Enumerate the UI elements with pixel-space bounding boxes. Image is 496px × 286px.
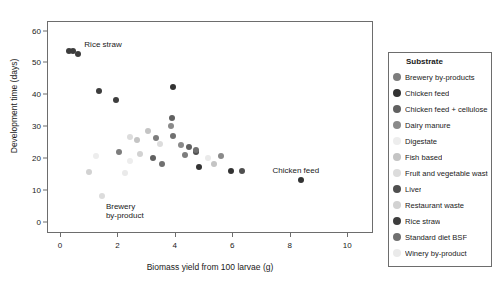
legend-item-4[interactable]: Digestate xyxy=(392,133,488,149)
data-point xyxy=(211,161,217,167)
data-point xyxy=(145,128,151,134)
data-point xyxy=(170,133,176,139)
x-tick-mark xyxy=(117,233,118,237)
plot-area xyxy=(47,21,373,233)
x-tick-mark xyxy=(290,233,291,237)
data-point xyxy=(137,151,143,157)
legend-marker-icon xyxy=(393,233,401,241)
legend-item-label: Liver xyxy=(405,185,421,194)
legend-title: Substrate xyxy=(406,57,488,66)
y-tick-label: 30 xyxy=(21,122,41,131)
legend-item-label: Fish based xyxy=(405,153,442,162)
data-point xyxy=(170,84,176,90)
data-point xyxy=(298,177,304,183)
legend-item-label: Rice straw xyxy=(405,217,440,226)
legend-item-label: Dairy manure xyxy=(405,121,451,130)
legend-marker-icon xyxy=(393,105,401,113)
data-point xyxy=(193,147,199,153)
x-axis-label: Biomass yield from 100 larvae (g) xyxy=(47,262,373,272)
data-point xyxy=(169,115,175,121)
data-point xyxy=(159,161,165,167)
y-tick-mark xyxy=(43,30,47,31)
data-point xyxy=(99,193,105,199)
y-tick-mark xyxy=(43,189,47,190)
data-point xyxy=(122,170,128,176)
data-point xyxy=(116,149,122,155)
legend-item-9[interactable]: Rice straw xyxy=(392,213,488,229)
y-tick-mark xyxy=(43,221,47,222)
legend-item-0[interactable]: Brewery by-products xyxy=(392,69,488,85)
legend-marker-icon xyxy=(393,185,401,193)
y-tick-label: 60 xyxy=(21,26,41,35)
x-tick-label: 2 xyxy=(105,241,129,250)
legend-item-3[interactable]: Dairy manure xyxy=(392,117,488,133)
legend-item-7[interactable]: Liver xyxy=(392,181,488,197)
data-point xyxy=(178,142,184,148)
legend-marker-icon xyxy=(393,89,401,97)
y-tick-mark xyxy=(43,62,47,63)
x-tick-label: 8 xyxy=(278,241,302,250)
annotation-chicken-feed: Chicken feed xyxy=(272,166,319,176)
data-point xyxy=(127,134,133,140)
x-tick-mark xyxy=(347,233,348,237)
data-point xyxy=(196,164,202,170)
annotation-brewery-by-product: Brewery by-product xyxy=(106,202,144,221)
x-tick-label: 10 xyxy=(335,241,359,250)
data-point xyxy=(157,141,163,147)
legend-marker-icon xyxy=(393,121,401,129)
y-tick-mark xyxy=(43,158,47,159)
y-tick-label: 0 xyxy=(21,217,41,226)
data-point xyxy=(75,51,81,57)
data-point xyxy=(168,123,174,129)
legend-item-label: Chicken feed + cellulose xyxy=(405,105,488,114)
legend-marker-icon xyxy=(393,169,401,177)
x-tick-mark xyxy=(232,233,233,237)
data-point xyxy=(86,169,92,175)
legend-item-label: Standard diet BSF xyxy=(405,233,467,242)
legend-item-2[interactable]: Chicken feed + cellulose xyxy=(392,101,488,117)
legend-marker-icon xyxy=(393,73,401,81)
x-tick-mark xyxy=(175,233,176,237)
legend-marker-icon xyxy=(393,201,401,209)
data-point xyxy=(113,97,119,103)
x-tick-mark xyxy=(60,233,61,237)
data-point xyxy=(239,168,245,174)
legend: Substrate Brewery by-productsChicken fee… xyxy=(388,52,492,267)
legend-item-11[interactable]: Winery by-product xyxy=(392,245,488,261)
y-tick-label: 50 xyxy=(21,58,41,67)
scatter-plot-figure: Development time (days) Biomass yield fr… xyxy=(0,0,496,286)
data-point xyxy=(228,168,234,174)
legend-item-label: Brewery by-products xyxy=(405,73,475,82)
y-tick-label: 40 xyxy=(21,90,41,99)
legend-item-label: Fruit and vegetable waste xyxy=(405,169,488,178)
legend-item-1[interactable]: Chicken feed xyxy=(392,85,488,101)
annotation-rice-straw: Rice straw xyxy=(84,40,121,50)
legend-item-10[interactable]: Standard diet BSF xyxy=(392,229,488,245)
data-point xyxy=(96,88,102,94)
legend-marker-icon xyxy=(393,137,401,145)
x-tick-label: 0 xyxy=(48,241,72,250)
data-point xyxy=(186,144,192,150)
legend-marker-icon xyxy=(393,217,401,225)
y-tick-mark xyxy=(43,126,47,127)
data-point xyxy=(134,137,140,143)
x-tick-label: 6 xyxy=(220,241,244,250)
y-tick-label: 10 xyxy=(21,185,41,194)
data-point xyxy=(153,135,159,141)
data-point xyxy=(93,153,99,159)
legend-item-label: Restaurant waste xyxy=(405,201,464,210)
legend-item-8[interactable]: Restaurant waste xyxy=(392,197,488,213)
data-point xyxy=(182,152,188,158)
legend-marker-icon xyxy=(393,153,401,161)
legend-marker-icon xyxy=(393,249,401,257)
legend-item-6[interactable]: Fruit and vegetable waste xyxy=(392,165,488,181)
y-tick-label: 20 xyxy=(21,154,41,163)
y-axis-label: Development time (days) xyxy=(9,16,19,196)
legend-item-5[interactable]: Fish based xyxy=(392,149,488,165)
data-point xyxy=(205,155,211,161)
x-tick-label: 4 xyxy=(163,241,187,250)
legend-item-label: Chicken feed xyxy=(405,89,449,98)
legend-item-label: Winery by-product xyxy=(405,249,467,258)
data-point xyxy=(150,155,156,161)
data-point xyxy=(127,158,133,164)
